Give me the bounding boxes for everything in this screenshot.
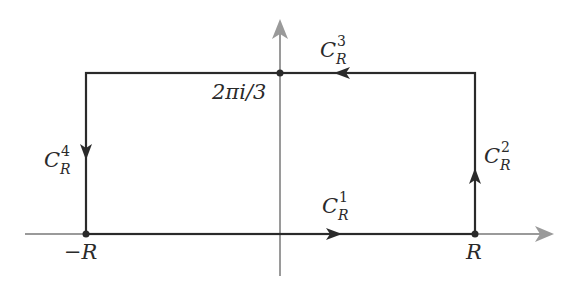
label-top-point: 2πi/3: [212, 82, 266, 103]
label-pos-r: R: [466, 242, 482, 263]
c4-sup: 4: [61, 144, 70, 158]
imaginary-axis: [272, 19, 288, 276]
c1-sub: R: [338, 208, 349, 222]
c2-sup: 2: [501, 140, 510, 154]
c3-base: C: [320, 38, 336, 62]
c4-base: C: [44, 148, 60, 172]
point-pos-r: [472, 231, 479, 238]
c3-sub: R: [336, 52, 347, 66]
point-top: [277, 70, 284, 77]
point-neg-r: [83, 231, 90, 238]
c4-sub: R: [60, 162, 71, 176]
label-c2: C 2 R: [484, 146, 524, 176]
c3-sup: 3: [337, 34, 346, 48]
label-neg-r: −R: [64, 242, 97, 263]
label-c4: C 4 R: [44, 150, 84, 180]
c2-base: C: [484, 144, 500, 168]
label-c3: C 3 R: [320, 40, 360, 70]
contour-diagram: −R R 2πi/3 C 1 R C 2 R C 3 R C 4 R: [0, 0, 571, 285]
c2-sub: R: [500, 158, 511, 172]
label-c1: C 1 R: [322, 196, 362, 226]
c1-sup: 1: [339, 190, 348, 204]
c1-base: C: [322, 194, 338, 218]
